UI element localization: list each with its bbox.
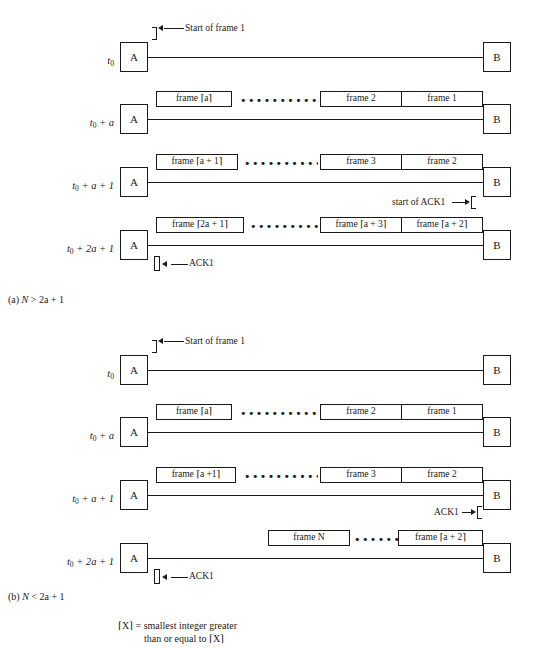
frame-box-right-a2-0: frame 2 (320, 91, 402, 107)
time-offset: + a + 1 (79, 493, 114, 504)
link-b3 (148, 495, 483, 496)
legend-line-1: ⌈X⌉ = smallest integer greater (118, 620, 237, 631)
time-offset: + 2a + 1 (74, 556, 114, 567)
leader-a4 (171, 264, 188, 265)
node-sender-b4: A (120, 543, 148, 573)
link-a4 (148, 245, 483, 246)
annotation-ack-b3: ACK1 (434, 508, 459, 518)
time-label-b3: t0 + a + 1 (28, 494, 114, 506)
legend-line-2: than or equal to ⌈X⌉ (118, 632, 237, 645)
annotation-start-of-ack-a3: start of ACK1 (392, 198, 445, 208)
time-label-a3: t0 + a + 1 (28, 181, 114, 193)
node-receiver-b4: B (483, 543, 511, 573)
link-a3 (148, 182, 483, 183)
time-subscript: 0 (110, 59, 114, 68)
frame-dots-b3: ••••••••••••••••• (244, 472, 318, 482)
frame-box-right-a4-1: frame ⌈a + 2⌉ (401, 217, 483, 233)
annotation-start-of-frame-b1: Start of frame 1 (185, 337, 245, 347)
frame-box-right-b4-1: frame ⌈a + 2⌉ (398, 530, 483, 546)
leader-b4 (171, 577, 188, 578)
time-label-a2: t0 + a (38, 118, 114, 130)
frame-dots-b4: •••••• (354, 535, 400, 545)
node-sender-b3: A (120, 480, 148, 510)
frame-box-right-a3-1: frame 2 (401, 154, 483, 170)
node-sender-b2: A (120, 417, 148, 447)
caption-part-b: (b) N < 2a + 1 (8, 592, 65, 602)
frame-box-right-b3-0: frame 3 (320, 467, 402, 483)
start-of-ack-marker-a3 (471, 196, 476, 209)
frame-dots-a2: ••••••••••••••••• (240, 96, 316, 106)
arrow-a4 (162, 261, 167, 267)
time-label-a4: t0 + 2a + 1 (22, 244, 114, 256)
link-b2 (148, 432, 483, 433)
time-label-a1: t0 (38, 56, 114, 68)
arrow-a3 (465, 199, 470, 205)
node-receiver-b1: B (483, 355, 511, 385)
arrow-b3 (471, 509, 476, 515)
frame-box-left-a4: frame ⌈2a + 1⌉ (156, 217, 244, 233)
node-receiver-a1: B (483, 42, 511, 72)
node-receiver-b2: B (483, 417, 511, 447)
time-label-b1: t0 (38, 369, 114, 381)
caption-prefix: (b) (8, 591, 22, 602)
caption-part-a: (a) N > 2a + 1 (8, 295, 64, 305)
arrow-b1 (158, 338, 163, 344)
node-sender-a2: A (120, 104, 148, 134)
annotation-ack-a4: ACK1 (189, 259, 214, 269)
node-sender-a3: A (120, 167, 148, 197)
node-sender-a1: A (120, 42, 148, 72)
legend-notation: ⌈X⌉ = smallest integer greater than or e… (118, 606, 237, 648)
time-offset: + a + 1 (79, 180, 114, 191)
frame-dots-a3: ••••••••••••••••• (244, 159, 318, 169)
link-b1 (148, 370, 483, 371)
node-receiver-b3: B (483, 480, 511, 510)
caption-prefix: (a) (8, 294, 22, 305)
node-sender-b1: A (120, 355, 148, 385)
annotation-start-of-frame-a1: Start of frame 1 (185, 24, 245, 34)
time-subscript: 0 (110, 372, 114, 381)
time-label-b4: t0 + 2a + 1 (22, 557, 114, 569)
node-sender-a4: A (120, 230, 148, 260)
node-receiver-a3: B (483, 167, 511, 197)
node-receiver-a2: B (483, 104, 511, 134)
start-of-frame-marker-a1 (152, 27, 157, 40)
frame-box-right-a4-0: frame ⌈a + 3⌉ (320, 217, 402, 233)
caption-var: N (22, 591, 29, 602)
arrow-a1 (158, 25, 163, 31)
frame-box-left-b2: frame ⌈a⌉ (156, 404, 232, 420)
time-offset: + a (96, 430, 114, 441)
node-receiver-a4: B (483, 230, 511, 260)
frame-box-right-b4-0: frame N (268, 530, 350, 546)
frame-box-right-b3-1: frame 2 (401, 467, 483, 483)
frame-box-right-a3-0: frame 3 (320, 154, 402, 170)
link-a2 (148, 119, 483, 120)
link-a1 (148, 57, 483, 58)
leader-a1 (164, 28, 184, 29)
time-offset: + 2a + 1 (74, 243, 114, 254)
ack-frame-box-a4 (154, 256, 160, 271)
frame-box-right-a2-1: frame 1 (401, 91, 483, 107)
frame-box-right-b2-1: frame 1 (401, 404, 483, 420)
link-b4 (148, 558, 483, 559)
frame-dots-b2: ••••••••••••••••• (240, 409, 316, 419)
time-offset: + a (96, 117, 114, 128)
leader-a3 (452, 202, 466, 203)
frame-box-right-b2-0: frame 2 (320, 404, 402, 420)
annotation-ack-b4: ACK1 (189, 572, 214, 582)
ack-frame-box-b4 (154, 569, 160, 584)
frame-box-left-a3: frame ⌈a + 1⌉ (156, 154, 238, 170)
frame-box-left-a2: frame ⌈a⌉ (156, 91, 232, 107)
frame-dots-a4: ••••••••••••••••• (250, 222, 318, 232)
time-label-b2: t0 + a (38, 431, 114, 443)
arrow-b4 (162, 574, 167, 580)
frame-box-left-b3: frame ⌈a +1⌉ (156, 467, 236, 483)
caption-rest: < 2a + 1 (29, 591, 65, 602)
caption-rest: > 2a + 1 (28, 294, 64, 305)
leader-b1 (164, 341, 184, 342)
ack-marker-b3 (477, 506, 482, 519)
start-of-frame-marker-b1 (152, 340, 157, 353)
